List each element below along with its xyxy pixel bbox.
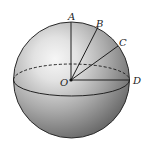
label-D: D <box>133 76 141 86</box>
label-B: B <box>96 19 103 29</box>
label-A: A <box>68 12 75 22</box>
label-O: O <box>60 78 68 88</box>
center-point-O <box>69 78 72 81</box>
label-C: C <box>119 38 127 48</box>
sphere-diagram <box>0 0 150 151</box>
